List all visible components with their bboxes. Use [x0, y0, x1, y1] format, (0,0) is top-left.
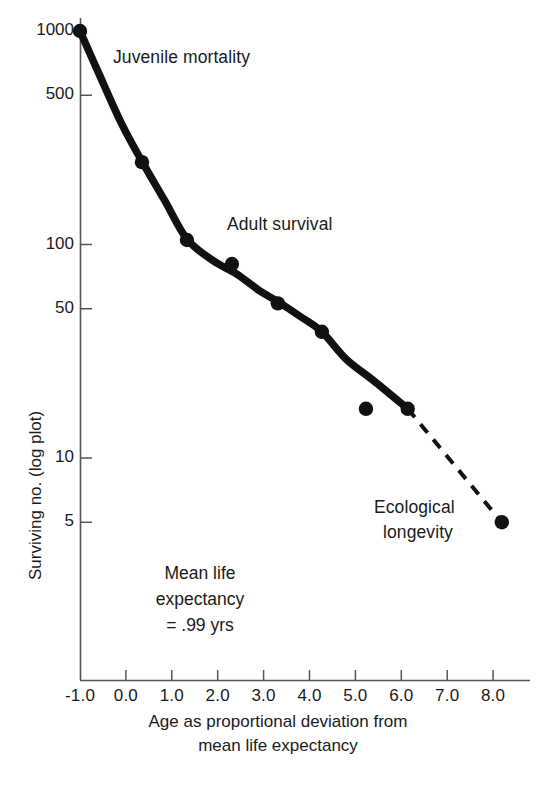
- x-tick-label: 0.0: [105, 686, 147, 706]
- x-tick-label: 4.0: [289, 686, 331, 706]
- y-tick-label: 500: [10, 84, 74, 104]
- data-point: [135, 155, 149, 169]
- annotation-ecological-longevity-line1: Ecological: [374, 497, 455, 518]
- data-point: [495, 515, 509, 529]
- x-tick-label: 8.0: [472, 686, 514, 706]
- data-point: [315, 325, 329, 339]
- note-mean-life-line1: Mean life: [120, 560, 280, 586]
- data-point: [73, 24, 87, 38]
- x-tick-label: 2.0: [197, 686, 239, 706]
- data-point: [180, 233, 194, 247]
- data-point-markers: [73, 24, 509, 530]
- data-point: [225, 257, 239, 271]
- annotation-adult-survival: Adult survival: [227, 214, 332, 235]
- data-point: [401, 402, 415, 416]
- y-tick-label: 1000: [10, 20, 74, 40]
- y-axis-title: Surviving no. (log plot): [26, 411, 46, 580]
- note-mean-life-line2: expectancy: [120, 586, 280, 612]
- x-tick-label: 6.0: [380, 686, 422, 706]
- y-axis-ticks: [80, 31, 92, 522]
- annotation-juvenile-mortality: Juvenile mortality: [113, 47, 250, 68]
- x-tick-label: -1.0: [59, 686, 101, 706]
- x-tick-label: 3.0: [243, 686, 285, 706]
- x-axis-ticks: [80, 670, 493, 680]
- x-tick-label: 1.0: [151, 686, 193, 706]
- data-point: [359, 402, 373, 416]
- x-tick-label: 5.0: [334, 686, 376, 706]
- annotation-ecological-longevity-line2: longevity: [383, 522, 453, 543]
- x-axis-title-line1: Age as proportional deviation from: [128, 710, 428, 734]
- x-tick-label: 7.0: [426, 686, 468, 706]
- y-tick-label: 100: [10, 234, 74, 254]
- x-axis-title-line2: mean life expectancy: [128, 734, 428, 758]
- survivorship-curve-figure: 1000 500 100 50 10 5 -1.0 0.0 1.0 2.0 3.…: [0, 0, 537, 790]
- data-point: [271, 296, 285, 310]
- y-tick-label: 50: [10, 298, 74, 318]
- note-mean-life-line3: = .99 yrs: [120, 612, 280, 638]
- plot-canvas: [0, 0, 537, 790]
